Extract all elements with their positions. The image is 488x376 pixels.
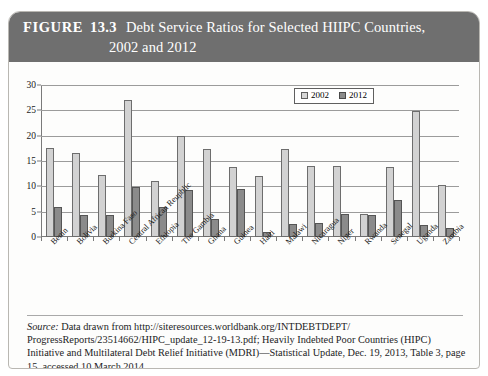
bar-2002 [229,167,237,237]
bar-group [355,85,381,237]
x-axis-tick-mark [459,237,460,241]
bar-2002 [307,166,315,237]
figure-label: FIGURE [23,19,83,35]
bar-2002 [46,148,54,237]
figure-title-text-1: Debt Service Ratios for Selected HIIPC C… [126,19,425,35]
source-note: Source: Data drawn from http://siteresou… [27,320,469,369]
figure-card: FIGURE13.3Debt Service Ratios for Select… [8,11,480,369]
legend-item-2002: 2002 [301,90,329,101]
bar-2002 [438,185,446,237]
bars-layer [41,85,459,237]
bar-2002 [72,153,80,237]
bar-2002 [360,214,368,237]
bar-group [276,85,302,237]
chart-legend: 2002 2012 [294,88,374,104]
bar-2002 [98,175,106,237]
legend-swatch-2002-icon [301,92,308,99]
bar-group [250,85,276,237]
legend-label-2012: 2012 [349,90,367,101]
legend-label-2002: 2002 [311,90,329,101]
figure-title-text-2: 2002 and 2012 [23,37,197,57]
legend-item-2012: 2012 [339,90,367,101]
legend-swatch-2012-icon [339,92,346,99]
bar-group [224,85,250,237]
bar-2002 [281,149,289,237]
bar-group [433,85,459,237]
y-axis-tick-label: 0 [31,232,36,242]
figure-title-line-2: 2002 and 2012 [23,37,471,57]
bar-group [302,85,328,237]
bar-group [172,85,198,237]
y-axis-tick-label: 15 [27,156,37,166]
y-axis-tick-label: 5 [31,207,36,217]
bar-group [381,85,407,237]
y-axis-tick-label: 20 [27,131,37,141]
y-axis-tick-label: 10 [27,181,37,191]
chart-plot: 051015202530 [41,85,459,237]
bar-2002 [255,176,263,237]
source-divider [27,315,463,316]
bar-group [93,85,119,237]
figure-title-line-1: FIGURE13.3Debt Service Ratios for Select… [23,17,471,37]
plot-area: 051015202530 2002 2012 BeninBoliviaBurki… [9,62,480,369]
bar-2002 [412,111,420,237]
source-text: Data drawn from http://siteresources.wor… [27,321,465,369]
bar-group [41,85,67,237]
bar-group [328,85,354,237]
y-axis-tick-label: 25 [27,105,37,115]
figure-header: FIGURE13.3Debt Service Ratios for Select… [9,12,480,62]
x-axis-labels: BeninBoliviaBurkina FasoCentral African … [41,240,459,310]
bar-group [407,85,433,237]
bar-group [67,85,93,237]
source-label: Source: [27,321,59,332]
y-axis-tick-label: 30 [27,80,37,90]
figure-number: 13.3 [90,19,117,35]
